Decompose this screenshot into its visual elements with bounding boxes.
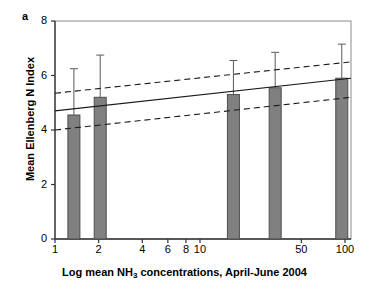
bar-3 (269, 88, 281, 239)
bar-0 (68, 115, 80, 239)
confidence-band-upper-95 (55, 62, 351, 93)
bar-4 (336, 78, 348, 239)
x-tick-label-4: 4 (130, 243, 154, 255)
y-tick-label-6: 6 (25, 69, 47, 81)
regression-line (55, 78, 351, 111)
x-tick-label-100: 100 (333, 243, 357, 255)
y-tick-label-4: 4 (25, 123, 47, 135)
x-tick-label-1: 1 (43, 243, 67, 255)
bar-1 (94, 97, 106, 239)
x-tick-label-10: 10 (188, 243, 212, 255)
x-tick-label-2: 2 (87, 243, 111, 255)
bar-2 (227, 95, 239, 239)
chart-figure: a Mean Ellenberg N Index Log mean NH3 co… (0, 0, 369, 292)
y-tick-label-2: 2 (25, 178, 47, 190)
x-tick-label-50: 50 (289, 243, 313, 255)
y-tick-label-8: 8 (25, 14, 47, 26)
